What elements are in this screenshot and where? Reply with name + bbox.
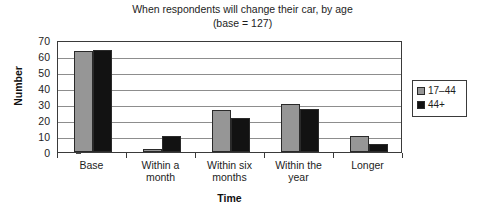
bar bbox=[74, 51, 93, 152]
y-axis-tick-label: 30 bbox=[24, 100, 50, 110]
legend-swatch bbox=[417, 87, 425, 95]
chart-subtitle: (base = 127) bbox=[0, 17, 485, 30]
bar bbox=[350, 136, 369, 152]
legend-swatch bbox=[417, 101, 425, 109]
legend-label: 17–44 bbox=[428, 86, 456, 96]
bar bbox=[300, 109, 319, 152]
x-axis-tick-label-line: year bbox=[253, 171, 345, 183]
bar bbox=[212, 110, 231, 152]
x-axis-tick-mark bbox=[195, 153, 196, 158]
legend-label: 44+ bbox=[428, 100, 445, 110]
chart-title: When respondents will change their car, … bbox=[0, 3, 485, 16]
chart-legend: 17–4444+ bbox=[412, 80, 467, 117]
x-axis-tick-mark bbox=[126, 153, 127, 158]
bar bbox=[162, 136, 181, 152]
x-axis-tick-mark bbox=[57, 153, 58, 158]
x-axis-tick-mark bbox=[333, 153, 334, 158]
x-axis-tick-mark bbox=[402, 153, 403, 158]
y-axis-tick-label: 60 bbox=[24, 52, 50, 62]
y-axis-tick-mark bbox=[76, 153, 81, 154]
x-axis-title: Time bbox=[57, 192, 402, 204]
bar bbox=[143, 149, 162, 152]
bar bbox=[93, 50, 112, 152]
y-axis-tick-label: 50 bbox=[24, 68, 50, 78]
y-axis-tick-label: 70 bbox=[24, 36, 50, 46]
bar bbox=[281, 104, 300, 152]
y-axis-tick-label: 10 bbox=[24, 132, 50, 142]
plot-area bbox=[57, 41, 402, 153]
x-axis-tick-label: Longer bbox=[322, 159, 414, 171]
bar bbox=[369, 144, 388, 152]
legend-item: 44+ bbox=[417, 98, 463, 112]
bar-series-container bbox=[58, 42, 401, 152]
y-axis-tick-label: 0 bbox=[24, 148, 50, 158]
y-axis-tick-labels: 010203040506070 bbox=[24, 36, 50, 158]
legend-item: 17–44 bbox=[417, 84, 463, 98]
bar bbox=[231, 118, 250, 152]
y-axis-tick-label: 40 bbox=[24, 84, 50, 94]
x-axis-tick-label-line: Longer bbox=[322, 159, 414, 171]
y-axis-title: Number bbox=[12, 46, 24, 126]
y-axis-tick-label: 20 bbox=[24, 116, 50, 126]
x-axis-tick-mark bbox=[264, 153, 265, 158]
